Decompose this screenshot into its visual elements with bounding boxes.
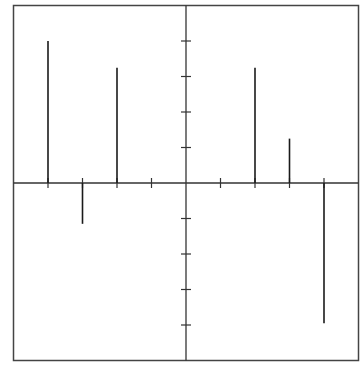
stem-plot (0, 0, 361, 366)
axes (14, 6, 359, 361)
